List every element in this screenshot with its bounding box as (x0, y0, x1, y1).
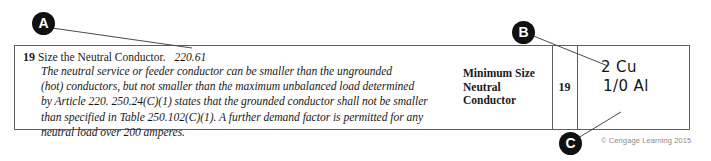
exam-question-box: 19 Size the Neutral Conductor. 220.61 Th… (14, 45, 690, 130)
copyright-notice: © Cengage Learning 2015 (601, 136, 691, 145)
answer-label-text: Minimum Size Neutral Conductor (463, 67, 535, 108)
answer-label-line-1: Minimum Size (463, 67, 535, 81)
question-title: Size the Neutral Conductor. (38, 51, 166, 63)
handwritten-answer-line-2: 1/0 Al (601, 77, 689, 96)
handwritten-answer-cell[interactable]: 2 Cu 1/0 Al (577, 46, 689, 129)
callout-marker-a[interactable]: A (33, 13, 54, 34)
answer-label-line-3: Conductor (463, 94, 535, 108)
answer-label-line-2: Neutral (463, 81, 535, 95)
answer-item-number-cell: 19 (552, 46, 577, 129)
answer-label-cell: Minimum Size Neutral Conductor (463, 46, 549, 129)
question-code-reference: 220.61 (169, 51, 207, 63)
callout-marker-b[interactable]: B (513, 22, 534, 43)
handwritten-answer-line-1: 2 Cu (601, 58, 689, 77)
question-number: 19 (23, 50, 35, 64)
callout-marker-c[interactable]: C (560, 133, 581, 154)
answer-item-number: 19 (559, 80, 571, 95)
